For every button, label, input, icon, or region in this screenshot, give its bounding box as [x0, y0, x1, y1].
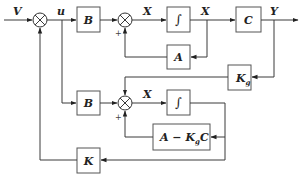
integral-icon: ∫ — [175, 12, 182, 27]
block-k-label: K — [83, 155, 94, 168]
signal-label-x-dot: X — [142, 5, 152, 18]
summing-junction-3 — [118, 96, 132, 110]
sum2-plus-sign: + — [115, 29, 122, 38]
signal-label-x: X — [200, 5, 210, 18]
signal-label-x-hat-dot: X — [142, 88, 152, 101]
sum3-plus-sign: + — [115, 113, 122, 122]
block-c-label: C — [244, 14, 253, 27]
signal-label-u: u — [57, 5, 65, 18]
block-b-top-label: B — [83, 14, 93, 27]
summing-junction-2 — [118, 13, 132, 27]
block-a-label: A — [173, 51, 183, 64]
summing-junction-1 — [33, 13, 47, 27]
block-b-bottom-label: B — [83, 97, 93, 110]
signal-label-y: Y — [270, 5, 279, 18]
block-observer-label: A − KgC — [159, 131, 209, 146]
integral-icon: ∫ — [175, 95, 182, 110]
block-diagram: V u B + X ∫ X A C Y Kg — [0, 0, 303, 181]
signal-label-v: V — [13, 5, 23, 18]
